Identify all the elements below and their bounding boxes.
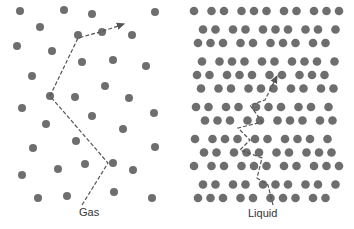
molecule: [228, 57, 237, 66]
molecule: [109, 159, 117, 167]
molecule: [323, 135, 332, 144]
molecule: [215, 57, 224, 66]
molecule: [266, 194, 275, 203]
molecule: [199, 25, 208, 34]
molecule: [314, 180, 323, 189]
liquid-label: Liquid: [248, 207, 277, 219]
molecule: [223, 71, 232, 80]
molecule: [241, 180, 250, 189]
molecule: [207, 7, 216, 16]
molecule: [60, 6, 68, 14]
molecule: [190, 7, 199, 16]
molecule: [271, 180, 280, 189]
molecule: [328, 116, 337, 125]
molecule: [36, 23, 44, 31]
molecule: [236, 194, 245, 203]
molecule: [42, 120, 50, 128]
molecule: [150, 109, 158, 117]
molecule: [281, 135, 290, 144]
molecule: [198, 57, 207, 66]
molecule: [226, 116, 235, 125]
molecule: [273, 116, 282, 125]
molecule: [18, 104, 26, 112]
molecule: [222, 103, 231, 112]
molecule: [194, 194, 203, 203]
molecule: [324, 103, 333, 112]
molecule: [227, 84, 236, 93]
molecule: [284, 180, 293, 189]
molecule: [229, 25, 238, 34]
molecule: [262, 162, 271, 171]
molecule: [331, 180, 340, 189]
molecule: [242, 148, 251, 157]
molecule: [300, 57, 309, 66]
molecule: [250, 7, 259, 16]
molecule: [286, 116, 295, 125]
molecule: [280, 7, 289, 16]
molecule: [287, 84, 296, 93]
molecule: [322, 7, 331, 16]
molecule: [279, 39, 288, 48]
molecule: [301, 180, 310, 189]
molecule: [200, 148, 209, 157]
molecule: [78, 58, 86, 66]
diagram-canvas: [0, 0, 354, 229]
molecule: [250, 162, 259, 171]
molecule: [265, 71, 274, 80]
molecule: [284, 25, 293, 34]
molecule: [258, 57, 267, 66]
molecule: [321, 194, 330, 203]
molecule: [264, 103, 273, 112]
gas-label: Gas: [79, 206, 99, 218]
molecule: [29, 144, 37, 152]
molecule: [335, 7, 344, 16]
molecule: [249, 39, 258, 48]
molecule: [257, 84, 266, 93]
molecule: [309, 39, 318, 48]
molecule: [129, 166, 137, 174]
molecule: [220, 162, 229, 171]
molecule: [244, 84, 253, 93]
molecule: [72, 137, 80, 145]
molecule: [271, 25, 280, 34]
molecule: [206, 194, 215, 203]
molecule: [206, 39, 215, 48]
molecule: [278, 71, 287, 80]
molecule: [208, 135, 217, 144]
molecule: [321, 39, 330, 48]
molecule: [306, 135, 315, 144]
molecule: [204, 103, 213, 112]
molecule: [190, 162, 199, 171]
molecule: [329, 84, 338, 93]
molecule: [212, 148, 221, 157]
molecule: [295, 71, 304, 80]
molecule: [315, 148, 324, 157]
molecule: [148, 194, 156, 202]
molecule: [292, 162, 301, 171]
molecule: [88, 10, 96, 18]
molecule: [230, 148, 239, 157]
molecule: [293, 135, 302, 144]
molecule: [309, 194, 318, 203]
molecule: [219, 194, 228, 203]
molecule: [191, 135, 200, 144]
molecule: [291, 39, 300, 48]
molecule: [266, 39, 275, 48]
molecule: [330, 57, 339, 66]
molecule: [28, 72, 36, 80]
molecule: [63, 192, 71, 200]
molecule: [142, 62, 150, 70]
molecule: [201, 116, 210, 125]
molecule: [109, 56, 117, 64]
molecule: [317, 84, 326, 93]
molecule: [307, 103, 316, 112]
molecule: [197, 84, 206, 93]
molecule: [327, 148, 336, 157]
molecule: [331, 25, 340, 34]
molecule: [125, 94, 133, 102]
molecule: [199, 180, 208, 189]
molecule: [314, 25, 323, 34]
molecule: [279, 194, 288, 203]
molecule: [302, 148, 311, 157]
molecule: [193, 71, 202, 80]
